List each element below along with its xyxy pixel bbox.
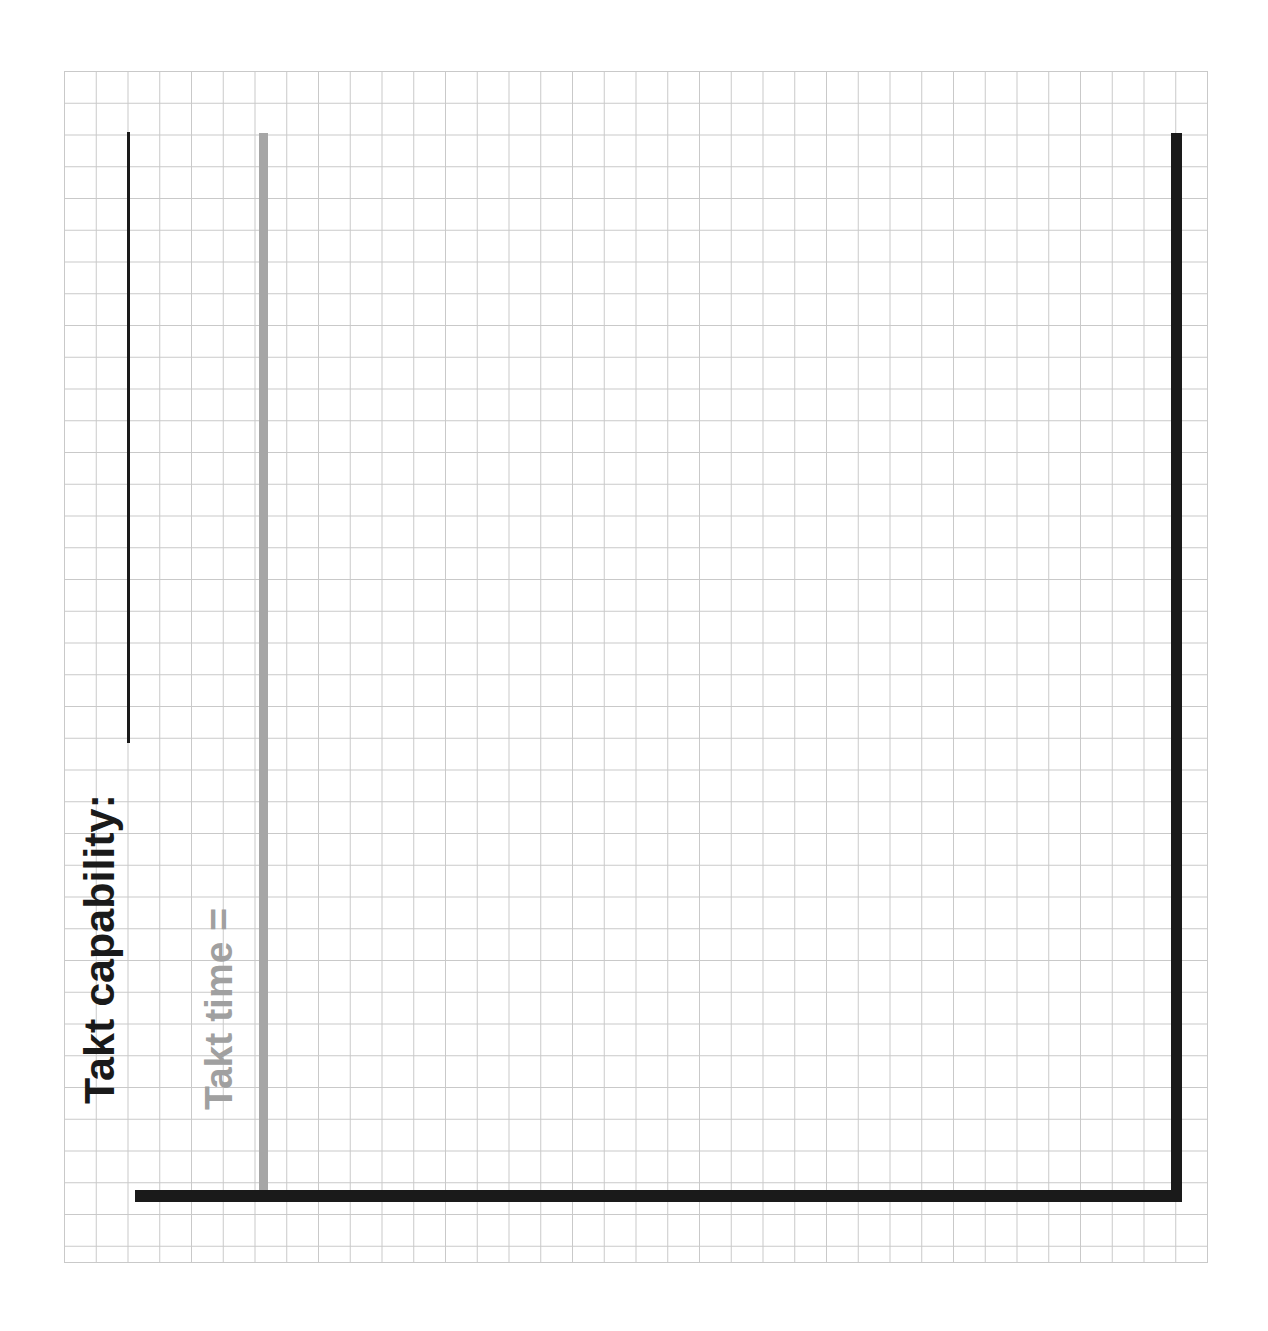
diagram-canvas: Takt capability: Takt time = (0, 0, 1268, 1331)
takt-time-bar (259, 133, 268, 1191)
axis-bottom-line (135, 1190, 1182, 1202)
takt-time-label: Takt time = (199, 908, 238, 1110)
axis-right-line (1171, 133, 1182, 1202)
takt-capability-line (127, 132, 130, 743)
takt-capability-label: Takt capability: (78, 794, 121, 1104)
